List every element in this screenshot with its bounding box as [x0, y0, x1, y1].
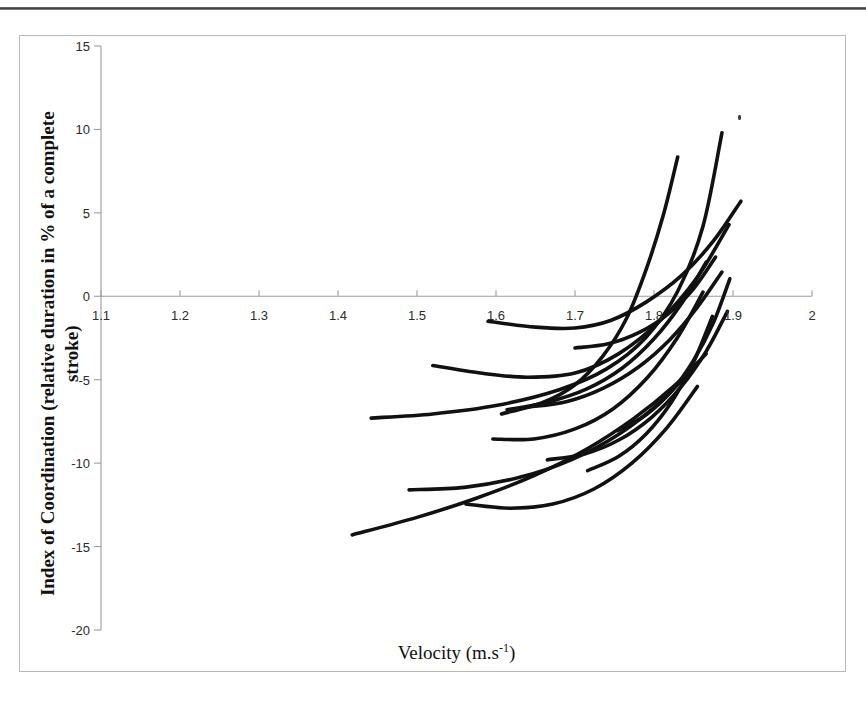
x-axis-title: Velocity (m.s-1)	[101, 641, 812, 664]
figure-frame	[19, 35, 846, 672]
x-axis-title-main: Velocity (m.s	[398, 642, 499, 663]
x-tick-label-1.6: 1.6	[487, 308, 505, 323]
x-tick-label-1.4: 1.4	[329, 308, 347, 323]
x-axis-title-close: )	[509, 642, 515, 663]
x-tick-label-1.9: 1.9	[724, 308, 742, 323]
scan-speck-1	[738, 115, 741, 120]
y-axis-title-line2: stroke)	[60, 54, 84, 654]
x-tick-label-1.2: 1.2	[171, 308, 189, 323]
x-axis-title-exponent: -1	[499, 641, 509, 655]
page-scan-edge	[0, 7, 866, 10]
x-tick-label-1.7: 1.7	[566, 308, 584, 323]
y-axis-title: Index of Coordination (relative duration…	[36, 54, 84, 654]
x-tick-label-1.8: 1.8	[645, 308, 663, 323]
x-tick-label-1.3: 1.3	[250, 308, 268, 323]
y-tick-label-15: 15	[50, 39, 90, 54]
x-tick-label-1.1: 1.1	[92, 308, 110, 323]
y-axis-title-line1: Index of Coordination (relative duration…	[37, 111, 58, 596]
x-tick-label-1.5: 1.5	[408, 308, 426, 323]
x-tick-label-2: 2	[808, 308, 815, 323]
scan-speck-2	[84, 216, 87, 219]
